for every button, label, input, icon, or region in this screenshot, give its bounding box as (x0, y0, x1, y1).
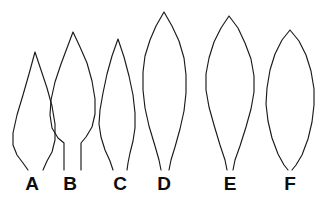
leaf-label-a-text: A (25, 173, 39, 194)
leaf-specimen-f: F (266, 30, 314, 194)
leaf-shape-figure: A B C D E F (0, 0, 324, 198)
leaf-specimen-d: D (143, 12, 186, 194)
leaf-label-b: B (63, 173, 77, 194)
leaf-specimen-e: E (206, 16, 254, 194)
leaf-label-c: C (113, 173, 127, 194)
leaf-specimen-a: A (13, 52, 55, 194)
leaf-label-b-text: B (63, 173, 77, 194)
leaf-specimen-b: B (50, 32, 95, 194)
leaf-label-f-text: F (284, 173, 296, 194)
leaf-outline-f (266, 30, 314, 170)
leaf-label-d-text: D (157, 173, 171, 194)
leaf-label-c-text: C (113, 173, 127, 194)
leaf-outline-d (143, 12, 186, 170)
leaf-outline-c (99, 39, 135, 170)
leaf-outline-a (13, 52, 55, 170)
leaf-label-a: A (25, 173, 39, 194)
leaf-label-e: E (224, 173, 237, 194)
leaf-outline-b (50, 32, 95, 170)
leaf-label-f: F (284, 173, 296, 194)
leaf-specimen-c: C (99, 39, 135, 194)
leaf-label-e-text: E (224, 173, 237, 194)
leaf-diagram-canvas: A B C D E F (0, 0, 324, 198)
leaf-outline-e (206, 16, 254, 170)
leaf-label-d: D (157, 173, 171, 194)
